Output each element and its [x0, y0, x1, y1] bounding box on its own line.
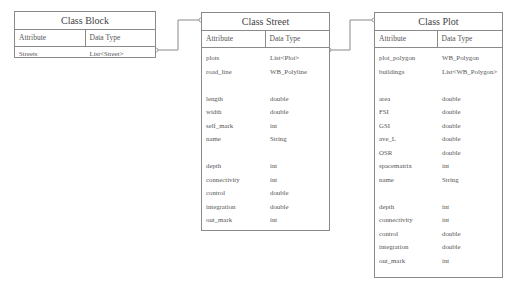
- attribute-row: plotsList<Plot>: [202, 51, 329, 65]
- attribute-row: lengthdouble: [202, 92, 329, 106]
- attribute-header: Attribute: [375, 31, 438, 47]
- attribute-row: GSIdouble: [375, 119, 502, 133]
- attribute-row: self_markint: [202, 119, 329, 133]
- attribute-row: Streets List<Street>: [15, 47, 155, 61]
- class-street-title: Class Street: [202, 13, 329, 31]
- spacer-row: [202, 78, 329, 92]
- street-plot-link: [330, 20, 373, 50]
- class-block[interactable]: Class Block Attribute Data Type Streets …: [14, 11, 156, 58]
- data-type-header: Data Type: [86, 30, 156, 46]
- spacer-row: [202, 146, 329, 160]
- class-plot-title: Class Plot: [375, 13, 502, 31]
- attribute-row: spacematrixint: [375, 159, 502, 173]
- attribute-row: out_markint: [375, 254, 502, 268]
- attribute-row: connectivityint: [202, 173, 329, 187]
- attribute-row: depthint: [375, 200, 502, 214]
- class-plot[interactable]: Class Plot Attribute Data Type plot_poly…: [374, 12, 503, 278]
- attribute-row: road_lineWB_Polyline: [202, 65, 329, 79]
- attribute-row: controldouble: [202, 186, 329, 200]
- data-type-header: Data Type: [438, 31, 502, 47]
- block-street-link: [157, 20, 200, 50]
- attribute-row: buildingsList<WB_Polygon>: [375, 65, 502, 79]
- attribute-row: nameString: [202, 132, 329, 146]
- attribute-row: controldouble: [375, 227, 502, 241]
- spacer-row: [375, 78, 502, 92]
- spacer-row: [375, 186, 502, 200]
- attribute-header: Attribute: [202, 31, 266, 47]
- attribute-row: areadouble: [375, 92, 502, 106]
- data-type-header: Data Type: [266, 31, 330, 47]
- attribute-header: Attribute: [15, 30, 86, 46]
- class-block-header: Attribute Data Type: [15, 30, 155, 47]
- class-block-title: Class Block: [15, 12, 155, 30]
- attribute-row: plot_polygonWB_Polygon: [375, 51, 502, 65]
- attribute-row: out_markint: [202, 213, 329, 227]
- attribute-row: FSIdouble: [375, 105, 502, 119]
- class-plot-header: Attribute Data Type: [375, 31, 502, 48]
- attribute-row: OSRdouble: [375, 146, 502, 160]
- attribute-row: integrationdouble: [375, 240, 502, 254]
- attribute-row: integrationdouble: [202, 200, 329, 214]
- attribute-row: connectivityint: [375, 213, 502, 227]
- attribute-row: widthdouble: [202, 105, 329, 119]
- attribute-row: nameString: [375, 173, 502, 187]
- class-street-header: Attribute Data Type: [202, 31, 329, 48]
- attribute-row: ave_Ldouble: [375, 132, 502, 146]
- class-street[interactable]: Class Street Attribute Data Type plotsLi…: [201, 12, 330, 231]
- attribute-row: depthint: [202, 159, 329, 173]
